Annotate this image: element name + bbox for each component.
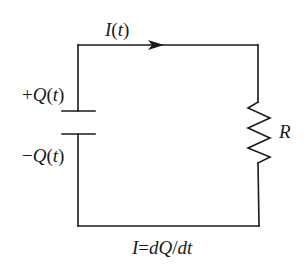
rc-circuit-diagram: I(t) +Q(t) −Q(t) R I=dQ/dt — [0, 0, 307, 266]
resistor-zigzag — [248, 102, 270, 163]
current-equation: I=dQ/dt — [131, 237, 193, 258]
resistor-label: R — [278, 121, 291, 142]
right-wire-lower — [258, 163, 259, 226]
negative-charge-label: −Q(t) — [22, 145, 64, 167]
current-label: I(t) — [104, 19, 129, 41]
positive-charge-label: +Q(t) — [22, 84, 64, 106]
